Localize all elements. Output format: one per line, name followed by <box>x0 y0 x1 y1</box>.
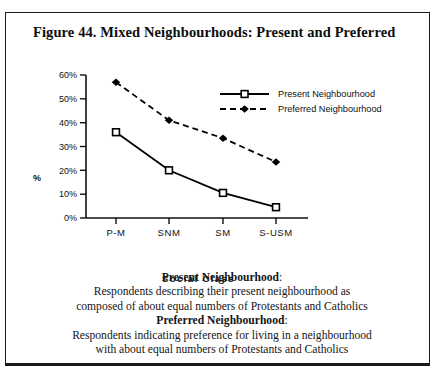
x-category-label: SNM <box>158 227 181 238</box>
y-tick-label: 0% <box>64 213 77 223</box>
y-axis-ticks <box>80 75 86 218</box>
series-markers-present <box>113 129 280 211</box>
y-tick-label: 30% <box>59 142 77 152</box>
chart-plot-area: 0% 10% 20% 30% 40% 50% 60% P-M SNM SM S-… <box>6 51 431 256</box>
legend-label-preferred: Preferred Neighbourhood <box>278 104 382 114</box>
figure-title: Figure 44. Mixed Neighbourhoods: Present… <box>33 24 413 41</box>
caption-colon: : <box>284 314 287 327</box>
x-category-label: P-M <box>106 227 125 238</box>
caption-preferred-line-2: with about equal numbers of Protestants … <box>36 343 408 357</box>
x-axis-category-labels: P-M SNM SM S-USM <box>106 227 292 238</box>
y-tick-label: 20% <box>59 166 77 176</box>
y-axis-tick-labels: 0% 10% 20% 30% 40% 50% 60% <box>59 70 77 223</box>
y-axis-title: % <box>33 173 41 183</box>
x-category-label: SM <box>215 227 230 238</box>
caption-preferred-line-1: Respondents indicating preference for li… <box>36 329 408 343</box>
legend-label-present: Present Neighbourhood <box>278 89 375 99</box>
figure-caption: Present Neighbourhood: Respondents descr… <box>36 271 408 357</box>
series-markers-preferred <box>112 78 280 165</box>
caption-heading-present-text: Present Neighbourhood <box>162 271 279 284</box>
figure-border-box: Figure 44. Mixed Neighbourhoods: Present… <box>5 12 430 366</box>
caption-present-line-2: composed of about equal numbers of Prote… <box>36 300 408 314</box>
y-tick-label: 40% <box>59 118 77 128</box>
caption-present-line-1: Respondents describing their present nei… <box>36 285 408 299</box>
caption-heading-present: Present Neighbourhood: <box>36 271 408 285</box>
chart-legend: Present Neighbourhood Preferred Neighbou… <box>220 89 382 114</box>
legend-item-present: Present Neighbourhood <box>220 89 375 99</box>
line-chart-svg: 0% 10% 20% 30% 40% 50% 60% P-M SNM SM S-… <box>6 51 431 256</box>
legend-item-preferred: Preferred Neighbourhood <box>220 104 382 114</box>
x-axis-ticks <box>116 218 276 224</box>
series-line-present <box>116 132 276 207</box>
y-tick-label: 10% <box>59 189 77 199</box>
y-tick-label: 50% <box>59 94 77 104</box>
caption-heading-preferred: Preferred Neighbourhood: <box>36 314 408 328</box>
x-category-label: S-USM <box>259 227 293 238</box>
caption-heading-preferred-text: Preferred Neighbourhood <box>156 314 284 327</box>
caption-colon: : <box>279 271 282 284</box>
y-tick-label: 60% <box>59 70 77 80</box>
